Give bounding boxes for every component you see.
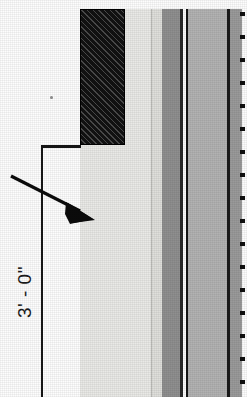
leader-arrow — [0, 0, 247, 397]
scan-speck — [50, 96, 53, 99]
drawing-canvas: 3' - 0" — [0, 0, 247, 397]
